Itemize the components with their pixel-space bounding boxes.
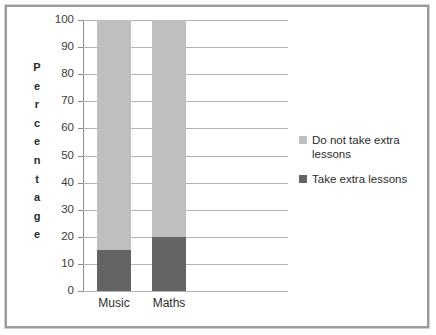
y-tick-mark — [78, 128, 83, 129]
y-tick-mark — [78, 210, 83, 211]
bar-column-music — [97, 20, 131, 291]
bar-segment — [97, 250, 131, 291]
y-tick-label: 70 — [48, 95, 74, 107]
y-tick-label: 50 — [48, 150, 74, 162]
y-tick-label: 80 — [48, 68, 74, 80]
y-tick-label: 0 — [48, 285, 74, 297]
y-tick-label: 10 — [48, 258, 74, 270]
y-tick-mark — [78, 47, 83, 48]
chart-legend: Do not take extra lessonsTake extra less… — [299, 133, 419, 197]
y-tick-label: 30 — [48, 204, 74, 216]
gridline — [83, 291, 288, 292]
y-tick-mark — [78, 74, 83, 75]
legend-label: Take extra lessons — [312, 172, 419, 186]
bar-segment — [152, 20, 186, 237]
y-tick-label: 60 — [48, 122, 74, 134]
y-tick-mark — [78, 264, 83, 265]
y-tick-label: 90 — [48, 41, 74, 53]
bar-segment — [97, 20, 131, 250]
category-label-maths: Maths — [134, 297, 204, 309]
bar-column-maths — [152, 20, 186, 291]
y-tick-mark — [78, 291, 83, 292]
legend-swatch-icon — [299, 136, 307, 144]
legend-item[interactable]: Do not take extra lessons — [299, 133, 419, 161]
y-tick-label: 40 — [48, 177, 74, 189]
y-tick-mark — [78, 237, 83, 238]
y-tick-label: 100 — [48, 14, 74, 26]
y-axis-title: P e r c e n t a g e — [26, 58, 48, 244]
legend-label: Do not take extra lessons — [312, 133, 419, 161]
legend-swatch-icon — [299, 175, 307, 183]
y-tick-mark — [78, 183, 83, 184]
bar-segment — [152, 237, 186, 291]
y-tick-mark — [78, 101, 83, 102]
y-tick-label: 20 — [48, 231, 74, 243]
y-tick-mark — [78, 20, 83, 21]
y-tick-mark — [78, 156, 83, 157]
legend-item[interactable]: Take extra lessons — [299, 172, 419, 186]
chart-page: P e r c e n t a g e 01020304050607080901… — [0, 0, 436, 335]
